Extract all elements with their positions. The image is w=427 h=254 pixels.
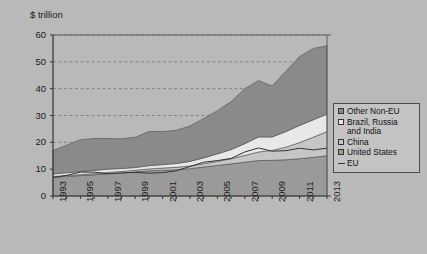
x-axis-tick-label: 1999 [139, 181, 150, 202]
chart-legend: Other Non-EUBrazil, Russia and IndiaChin… [333, 103, 420, 173]
y-axis-tick-label: 30 [24, 110, 46, 121]
legend-line-icon [338, 160, 344, 166]
legend-item[interactable]: Brazil, Russia and India [337, 118, 417, 137]
legend-item-label: China [347, 138, 369, 148]
x-axis-tick-label: 2001 [167, 181, 178, 202]
x-axis-tick-label: 2009 [276, 181, 287, 202]
x-axis-tick-label: 2005 [221, 181, 232, 202]
legend-item[interactable]: Other Non-EU [337, 107, 417, 117]
y-axis-tick-label: 50 [24, 56, 46, 67]
legend-item[interactable]: EU [337, 159, 417, 169]
y-axis-tick-label: 60 [24, 29, 46, 40]
y-axis-tick-label: 20 [24, 136, 46, 147]
legend-swatch-icon [338, 149, 344, 155]
y-axis-tick-label: 10 [24, 163, 46, 174]
legend-swatch-icon [338, 108, 344, 114]
legend-item[interactable]: United States [337, 148, 417, 158]
legend-item-label: Other Non-EU [347, 107, 400, 117]
x-axis-tick-label: 1997 [112, 181, 123, 202]
x-axis-tick-label: 1993 [57, 181, 68, 202]
legend-swatch-icon [338, 119, 344, 125]
x-axis-tick-label: 2003 [194, 181, 205, 202]
x-axis-tick-label: 1995 [84, 181, 95, 202]
legend-item-label: EU [347, 159, 359, 169]
y-axis-tick-label: 0 [24, 190, 46, 201]
y-axis-tick-label: 40 [24, 83, 46, 94]
legend-item-label: United States [347, 148, 397, 158]
legend-item-label: Brazil, Russia and India [347, 118, 398, 137]
x-axis-tick-label: 2011 [304, 182, 315, 202]
chart-figure: $ trillion 0102030405060 199319951997199… [0, 0, 427, 254]
legend-item[interactable]: China [337, 138, 417, 148]
x-axis-tick-label: 2013 [331, 181, 342, 202]
legend-swatch-icon [338, 139, 344, 145]
x-axis-tick-label: 2007 [249, 181, 260, 202]
